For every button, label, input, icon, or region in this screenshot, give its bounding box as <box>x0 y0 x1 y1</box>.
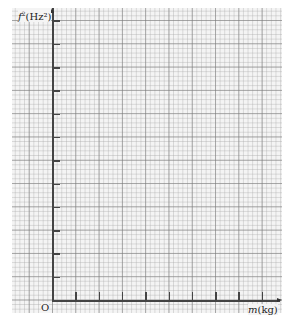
x-axis <box>52 300 280 302</box>
y-axis-unit: (Hz²) <box>26 11 52 22</box>
x-axis-unit: (kg) <box>257 304 277 315</box>
x-tick <box>192 292 194 300</box>
x-axis-label: m(kg) <box>248 304 278 315</box>
x-tick <box>215 292 217 300</box>
x-tick <box>238 292 240 300</box>
x-tick <box>75 292 77 300</box>
x-tick <box>169 292 171 300</box>
x-tick <box>145 292 147 300</box>
y-axis <box>52 8 54 301</box>
x-tick <box>262 292 264 300</box>
x-axis-arrow-icon <box>277 298 282 302</box>
y-axis-label: f2(Hz²) <box>18 8 51 22</box>
origin-label: O <box>41 302 49 313</box>
x-tick <box>122 292 124 300</box>
x-tick <box>99 292 101 300</box>
